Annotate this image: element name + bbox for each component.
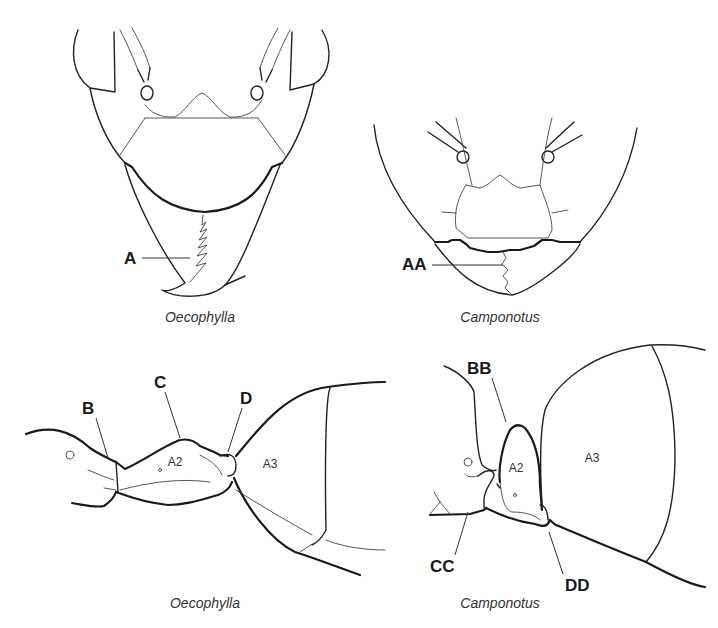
segment-label-a2-camponotus: A2 [509,461,524,475]
label-aa: AA [402,255,427,274]
label-cc: BB [467,359,492,378]
caption-oecophylla-head: Oecophylla [165,309,235,325]
caption-camponotus-head: Camponotus [460,309,539,325]
label-dd: DD [565,576,590,595]
leader-line-cc [492,378,506,422]
label-c: C [154,373,166,392]
oecophylla-head-drawing [74,28,329,296]
camponotus-petiole-drawing [430,345,705,587]
label-bb: CC [430,557,455,576]
oecophylla-petiole-drawing [26,382,385,575]
ant-morphology-figure: A Oecophylla AA Camponotus [0,0,718,628]
segment-label-a2-oecophylla: A2 [168,455,183,469]
label-a: A [124,249,136,268]
segment-label-a3-camponotus: A3 [585,451,600,465]
caption-camponotus-petiole: Camponotus [460,595,539,611]
caption-oecophylla-petiole: Oecophylla [170,595,240,611]
segment-label-a3-oecophylla: A3 [263,457,278,471]
leader-line-c [165,392,180,438]
label-b: B [82,399,94,418]
leader-line-dd [549,532,563,574]
leader-line-bb [455,512,468,555]
label-d: D [240,389,252,408]
leader-line-d [228,408,242,452]
